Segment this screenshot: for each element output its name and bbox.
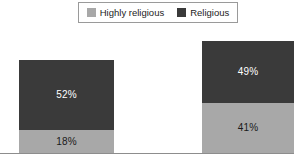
plot-area: 52% 18% 49% 41% bbox=[0, 24, 294, 161]
bar-label-49: 49% bbox=[238, 67, 259, 77]
bar-label-41: 41% bbox=[238, 123, 259, 133]
legend-label-highly-religious: Highly religious bbox=[100, 8, 164, 18]
legend-label-religious: Religious bbox=[190, 8, 229, 18]
bar-segment-religious-1: 52% bbox=[19, 60, 114, 130]
bar-label-52: 52% bbox=[56, 90, 77, 100]
bar-segment-highly-religious-2: 41% bbox=[202, 103, 294, 154]
bar-label-18: 18% bbox=[56, 137, 77, 147]
bar-group-1: 52% 18% bbox=[19, 60, 114, 154]
legend-swatch-highly-religious-icon bbox=[87, 8, 96, 17]
legend-item-highly-religious: Highly religious bbox=[87, 8, 164, 18]
bar-segment-highly-religious-1: 18% bbox=[19, 130, 114, 154]
x-axis-line bbox=[0, 153, 294, 154]
legend-swatch-religious-icon bbox=[177, 8, 186, 17]
bar-segment-religious-2: 49% bbox=[202, 41, 294, 103]
chart-legend: Highly religious Religious bbox=[78, 2, 238, 23]
stacked-bar-chart: Highly religious Religious 52% 18% 49% 4… bbox=[0, 0, 294, 161]
bar-group-2: 49% 41% bbox=[202, 41, 294, 154]
legend-item-religious: Religious bbox=[177, 8, 229, 18]
